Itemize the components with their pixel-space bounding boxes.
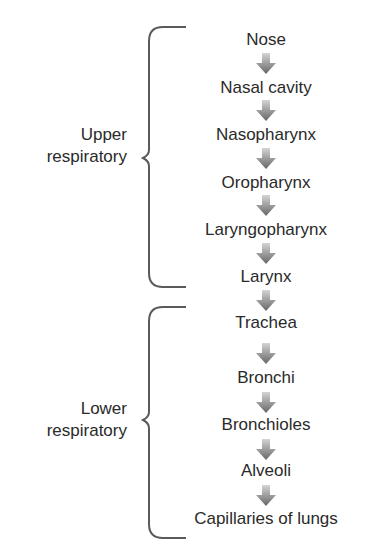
step-nose: Nose [166, 30, 366, 50]
step-bronchioles: Bronchioles [166, 415, 366, 435]
step-nasopharynx: Nasopharynx [166, 125, 366, 145]
down-arrow-icon [255, 195, 277, 217]
down-arrow-icon [255, 53, 277, 75]
lower-respiratory-label: Lower respiratory [47, 398, 127, 442]
down-arrow-icon [255, 148, 277, 170]
down-arrow-icon [255, 392, 277, 414]
down-arrow-icon [255, 439, 277, 461]
step-capillaries-of-lungs: Capillaries of lungs [166, 509, 366, 529]
down-arrow-icon [255, 485, 277, 507]
step-trachea: Trachea [166, 313, 366, 333]
down-arrow-icon [255, 100, 277, 122]
upper-respiratory-brace [143, 27, 186, 287]
lower-label-line1: Lower [47, 398, 127, 420]
step-oropharynx: Oropharynx [166, 173, 366, 193]
step-larynx: Larynx [166, 267, 366, 287]
upper-respiratory-label: Upper respiratory [47, 124, 127, 168]
lower-label-line2: respiratory [47, 420, 127, 442]
upper-label-line1: Upper [47, 124, 127, 146]
down-arrow-icon [255, 243, 277, 265]
step-nasal-cavity: Nasal cavity [166, 78, 366, 98]
down-arrow-icon [255, 343, 277, 365]
step-alveoli: Alveoli [166, 461, 366, 481]
step-bronchi: Bronchi [166, 368, 366, 388]
step-laryngopharynx: Laryngopharynx [166, 220, 366, 240]
down-arrow-icon [255, 290, 277, 312]
upper-label-line2: respiratory [47, 146, 127, 168]
